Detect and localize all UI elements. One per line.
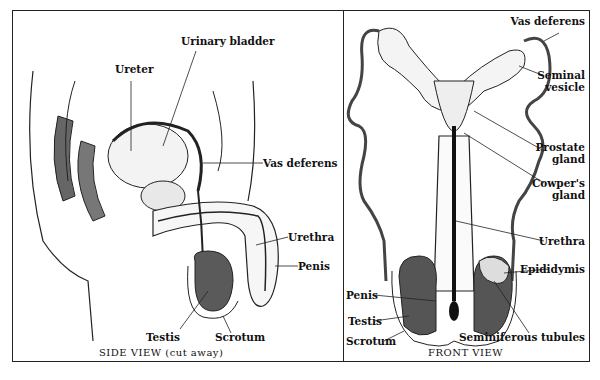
label-urinary-bladder: Urinary bladder: [181, 35, 274, 47]
label-cowpers-gland-line2: gland: [552, 189, 585, 201]
label-seminal-vesicle-line1: Seminal: [537, 69, 585, 81]
label-vas-deferens: Vas deferens: [510, 15, 585, 27]
front-view-caption: FRONT VIEW: [428, 347, 503, 358]
label-ureter: Ureter: [115, 63, 153, 75]
front-view-panel: Vas deferens Seminal vesicle Prostate gl…: [343, 10, 590, 362]
label-scrotum: Scrotum: [346, 335, 396, 347]
label-testis: Testis: [348, 315, 382, 327]
label-testis: Testis: [146, 331, 180, 343]
label-prostate-gland-line2: gland: [552, 153, 585, 165]
label-urethra: Urethra: [539, 235, 585, 247]
side-view-illustration: [13, 11, 343, 361]
label-cowpers-gland-line1: Cowper's: [532, 177, 585, 189]
label-scrotum: Scrotum: [215, 331, 265, 343]
label-urethra: Urethra: [288, 231, 334, 243]
label-vas-deferens: Vas deferens: [263, 157, 338, 169]
label-penis: Penis: [346, 289, 378, 301]
label-seminal-vesicle-line2: vesicle: [545, 81, 585, 93]
label-prostate-gland-line1: Prostate: [535, 141, 585, 153]
side-view-caption: SIDE VIEW (cut away): [99, 347, 223, 358]
label-penis: Penis: [298, 260, 330, 272]
label-epididymis: Epididymis: [520, 263, 585, 275]
label-seminiferous-tubules: Seminiferous tubules: [459, 331, 585, 343]
side-view-panel: Ureter Urinary bladder Vas deferens Uret…: [12, 10, 344, 362]
